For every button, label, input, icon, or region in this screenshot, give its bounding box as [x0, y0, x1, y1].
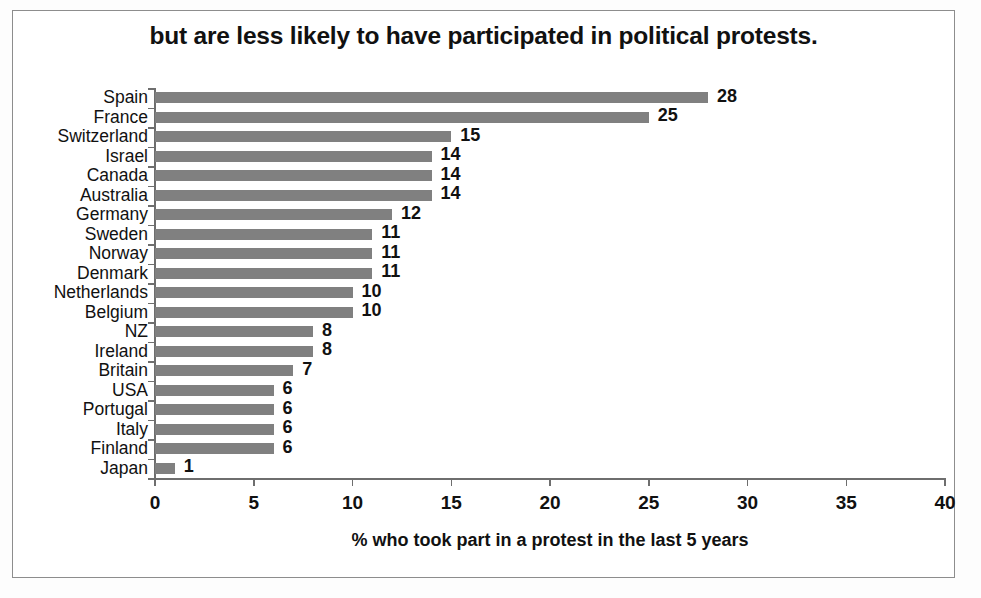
- y-axis-tick: [148, 420, 155, 422]
- bar-value-label: 6: [283, 437, 293, 458]
- x-axis-tick: [846, 479, 848, 486]
- bar: [155, 443, 274, 454]
- y-axis-tick: [148, 283, 155, 285]
- y-axis-tick: [148, 361, 155, 363]
- category-label: Norway: [8, 244, 148, 264]
- bar-row: 8: [155, 322, 945, 342]
- bar: [155, 463, 175, 474]
- y-axis-tick: [148, 303, 155, 305]
- y-axis-tick: [148, 381, 155, 383]
- bar-value-label: 12: [401, 203, 421, 224]
- x-axis-tick-label: 30: [725, 492, 771, 514]
- x-axis-tick-label: 15: [428, 492, 474, 514]
- category-label: Italy: [8, 420, 148, 440]
- x-axis-tick: [154, 479, 156, 486]
- category-label: Australia: [8, 186, 148, 206]
- y-axis-tick: [148, 400, 155, 402]
- category-label: Israel: [8, 147, 148, 167]
- y-axis-category-labels: SpainFranceSwitzerlandIsraelCanadaAustra…: [8, 88, 148, 478]
- category-label: NZ: [8, 322, 148, 342]
- plot-area: 28251514141412111111101088766661: [155, 88, 945, 478]
- y-axis-tick: [148, 108, 155, 110]
- y-axis-tick: [148, 244, 155, 246]
- x-axis-tick: [253, 479, 255, 486]
- bar-value-label: 10: [362, 281, 382, 302]
- y-axis-tick: [148, 166, 155, 168]
- category-label: USA: [8, 381, 148, 401]
- x-axis-tick: [549, 479, 551, 486]
- x-axis-tick: [451, 479, 453, 486]
- bar: [155, 131, 451, 142]
- bar-value-label: 14: [441, 144, 461, 165]
- bar-value-label: 11: [381, 242, 400, 263]
- category-label: France: [8, 108, 148, 128]
- category-label: Sweden: [8, 225, 148, 245]
- y-axis-tick: [148, 225, 155, 227]
- bar-row: 10: [155, 303, 945, 323]
- bar-row: 14: [155, 186, 945, 206]
- bar-row: 12: [155, 205, 945, 225]
- y-axis-tick: [148, 88, 155, 90]
- bar: [155, 346, 313, 357]
- bar-row: 28: [155, 88, 945, 108]
- category-label: Canada: [8, 166, 148, 186]
- x-axis-tick-label: 5: [231, 492, 277, 514]
- x-axis-tick-label: 35: [823, 492, 869, 514]
- x-axis-tick: [944, 479, 946, 486]
- bar: [155, 424, 274, 435]
- bar-row: 10: [155, 283, 945, 303]
- bar-value-label: 8: [322, 339, 332, 360]
- bar-row: 11: [155, 225, 945, 245]
- bar-row: 6: [155, 439, 945, 459]
- bar: [155, 404, 274, 415]
- bar-row: 7: [155, 361, 945, 381]
- bar: [155, 229, 372, 240]
- bar-row: 6: [155, 400, 945, 420]
- y-axis-tick: [148, 342, 155, 344]
- bar-row: 11: [155, 264, 945, 284]
- bar-value-label: 15: [460, 125, 480, 146]
- bar-value-label: 6: [283, 417, 293, 438]
- bar-row: 14: [155, 166, 945, 186]
- bar-value-label: 14: [441, 164, 461, 185]
- category-label: Japan: [8, 459, 148, 479]
- bar-row: 14: [155, 147, 945, 167]
- bar-value-label: 8: [322, 320, 332, 341]
- bar-value-label: 28: [717, 86, 737, 107]
- chart-title: but are less likely to have participated…: [12, 22, 955, 50]
- y-axis-tick: [148, 322, 155, 324]
- bar: [155, 268, 372, 279]
- bar: [155, 326, 313, 337]
- category-label: Spain: [8, 88, 148, 108]
- category-label: Netherlands: [8, 283, 148, 303]
- x-axis-tick: [352, 479, 354, 486]
- category-label: Britain: [8, 361, 148, 381]
- y-axis-tick: [148, 127, 155, 129]
- bar: [155, 248, 372, 259]
- bar: [155, 365, 293, 376]
- bar: [155, 307, 353, 318]
- bar-value-label: 11: [381, 261, 400, 282]
- bar: [155, 287, 353, 298]
- bar-row: 11: [155, 244, 945, 264]
- x-axis-tick: [747, 479, 749, 486]
- x-axis-tick-label: 20: [527, 492, 573, 514]
- bar: [155, 190, 432, 201]
- bar-row: 6: [155, 381, 945, 401]
- category-label: Portugal: [8, 400, 148, 420]
- y-axis-tick: [148, 264, 155, 266]
- x-axis-tick: [648, 479, 650, 486]
- category-label: Denmark: [8, 264, 148, 284]
- x-axis-tick-label: 40: [922, 492, 968, 514]
- x-axis-title: % who took part in a protest in the last…: [155, 530, 945, 551]
- bar-row: 15: [155, 127, 945, 147]
- category-label: Belgium: [8, 303, 148, 323]
- category-label: Finland: [8, 439, 148, 459]
- bar-value-label: 14: [441, 183, 461, 204]
- y-axis-tick: [148, 205, 155, 207]
- y-axis-tick: [148, 459, 155, 461]
- bar-row: 25: [155, 108, 945, 128]
- y-axis-tick: [148, 147, 155, 149]
- bar: [155, 92, 708, 103]
- y-axis-tick: [148, 186, 155, 188]
